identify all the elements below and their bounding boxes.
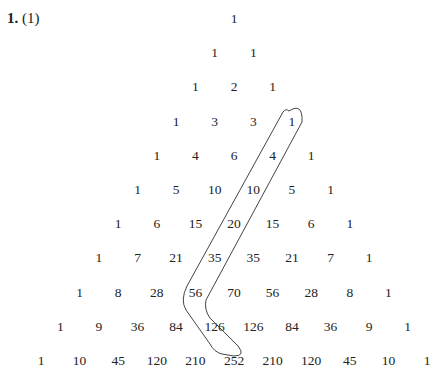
highlight-loop [0, 0, 430, 367]
